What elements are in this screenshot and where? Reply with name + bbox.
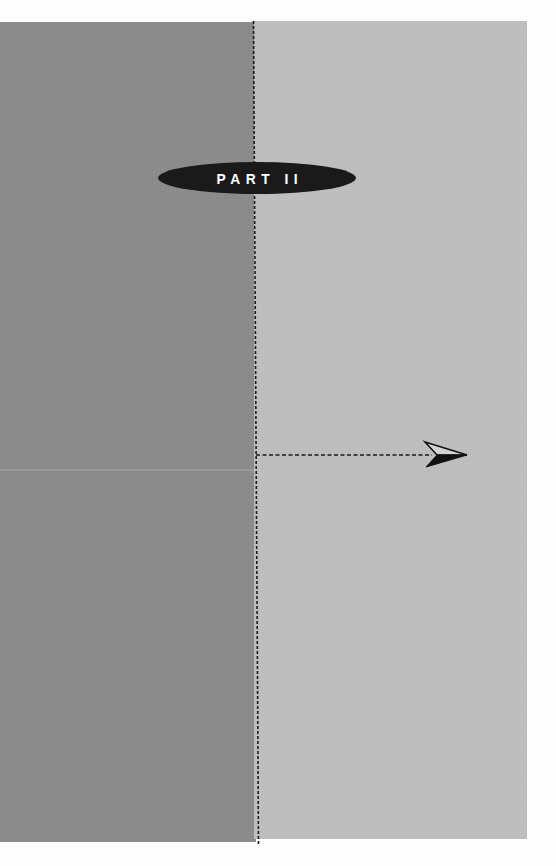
book-page: PART II (0, 0, 556, 866)
paper-plane-arrow-icon (425, 442, 467, 467)
divider-graphics (0, 0, 556, 866)
part-title: PART II (211, 171, 303, 186)
part-title-badge: PART II (158, 162, 356, 194)
vertical-dashed-divider (254, 21, 259, 845)
